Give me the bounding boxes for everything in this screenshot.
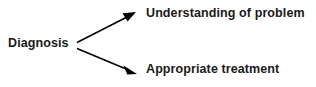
- arrow-up-right: [77, 12, 136, 43]
- arrow-up-right-head: [123, 12, 137, 22]
- arrow-down-right-shaft: [77, 49, 129, 71]
- arrow-down-right: [77, 49, 137, 75]
- arrow-layer: [0, 0, 316, 87]
- diagram-canvas: Diagnosis Understanding of problem Appro…: [0, 0, 316, 87]
- arrow-up-right-shaft: [77, 17, 128, 43]
- arrow-down-right-head: [124, 66, 138, 75]
